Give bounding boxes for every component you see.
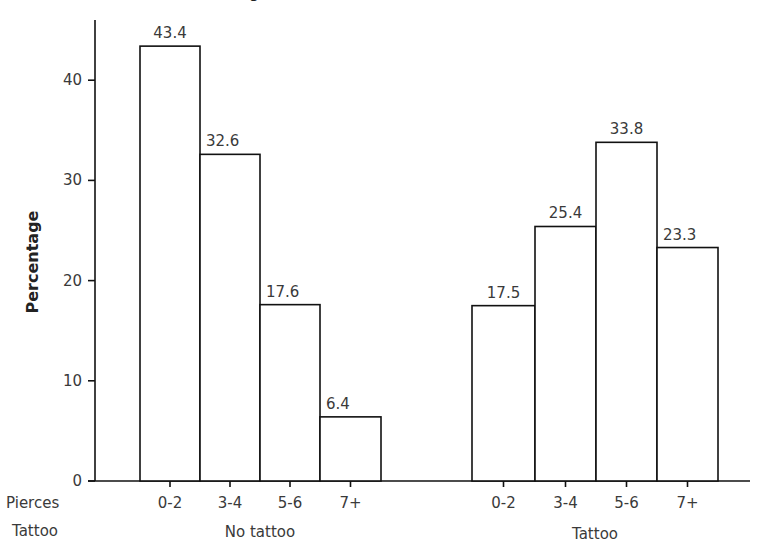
group-label-tattoo: Tattoo	[571, 525, 618, 543]
value-label: 17.6	[266, 283, 299, 301]
bar	[657, 248, 718, 481]
bar	[200, 154, 260, 481]
y-tick-label: 20	[63, 272, 82, 290]
bar	[140, 46, 200, 481]
category-label: 7+	[676, 494, 698, 512]
category-label: 0-2	[158, 494, 183, 512]
y-ticks: 010203040	[63, 71, 95, 490]
value-label: 23.3	[663, 226, 696, 244]
category-label: 5-6	[614, 494, 639, 512]
category-label: 3-4	[553, 494, 578, 512]
y-axis-label: Percentage	[23, 210, 42, 313]
category-label: 7+	[339, 494, 361, 512]
category-label: 5-6	[278, 494, 303, 512]
y-tick-label: 0	[72, 472, 82, 490]
bar-chart: g 010203040 Percentage 43.432.617.66.417…	[0, 0, 757, 560]
value-label: 25.4	[549, 204, 582, 222]
group-label-no-tattoo: No tattoo	[225, 523, 295, 541]
bar	[472, 306, 535, 481]
chart-title-fragment: g	[249, 0, 259, 2]
y-tick-label: 40	[63, 71, 82, 89]
bar	[320, 417, 381, 481]
value-label: 6.4	[326, 395, 350, 413]
bar	[535, 226, 596, 481]
y-tick-label: 30	[63, 171, 82, 189]
row-label-tattoo: Tattoo	[11, 522, 58, 540]
y-tick-label: 10	[63, 372, 82, 390]
category-label: 0-2	[491, 494, 516, 512]
value-label: 43.4	[153, 24, 186, 42]
bar	[596, 142, 657, 481]
value-label: 33.8	[610, 120, 643, 138]
bar	[260, 305, 320, 481]
category-label: 3-4	[218, 494, 243, 512]
value-label: 17.5	[487, 284, 520, 302]
row-label-pierces: Pierces	[6, 494, 59, 512]
bars	[140, 46, 718, 481]
value-label: 32.6	[206, 132, 239, 150]
category-labels: 0-23-45-67+0-23-45-67+	[158, 481, 699, 512]
